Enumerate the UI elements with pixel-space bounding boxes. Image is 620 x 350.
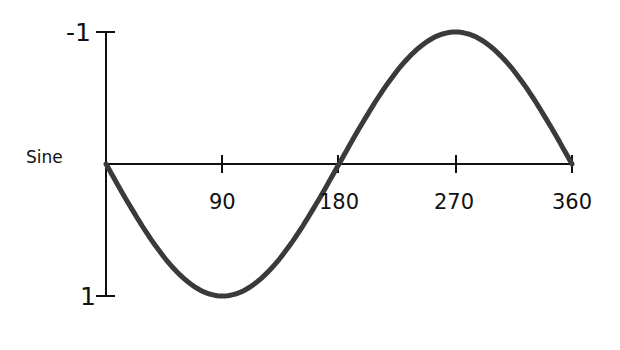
- x-tick-label-180: 180: [319, 192, 359, 213]
- x-tick-label-270: 270: [434, 192, 474, 213]
- x-tick-label-360: 360: [552, 192, 592, 213]
- x-tick-label-90: 90: [209, 192, 236, 213]
- series-label: Sine: [26, 149, 63, 166]
- y-tick-label-bottom: 1: [80, 284, 96, 309]
- y-tick-label-top: -1: [66, 20, 91, 45]
